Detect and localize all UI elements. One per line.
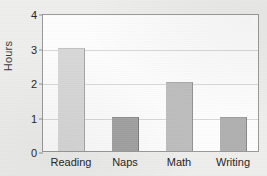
y-axis-title: Hours	[2, 16, 14, 96]
y-tick-mark-1	[39, 118, 43, 119]
y-tick-label-1: 1	[31, 113, 37, 125]
y-tick-label-4: 4	[31, 9, 37, 21]
bar-reading	[58, 48, 85, 152]
bar-naps	[112, 117, 139, 152]
y-tick-mark-4	[39, 15, 43, 16]
bar-math	[166, 82, 193, 151]
y-tick-label-2: 2	[31, 78, 37, 90]
y-tick-label-0: 0	[31, 147, 37, 159]
bar-chart-figure: 4 3 2 1 0 Hours Reading Naps Math Writin…	[0, 0, 267, 176]
y-tick-mark-0	[39, 153, 43, 154]
x-tick-label-writing: Writing	[216, 156, 250, 168]
x-tick-label-naps: Naps	[112, 156, 138, 168]
y-tick-mark-2	[39, 84, 43, 85]
x-tick-label-reading: Reading	[51, 156, 92, 168]
x-tick-label-math: Math	[167, 156, 191, 168]
plot-area: 4 3 2 1 0	[42, 14, 259, 152]
y-tick-mark-3	[39, 49, 43, 50]
bar-writing	[220, 117, 247, 152]
y-tick-label-3: 3	[31, 44, 37, 56]
